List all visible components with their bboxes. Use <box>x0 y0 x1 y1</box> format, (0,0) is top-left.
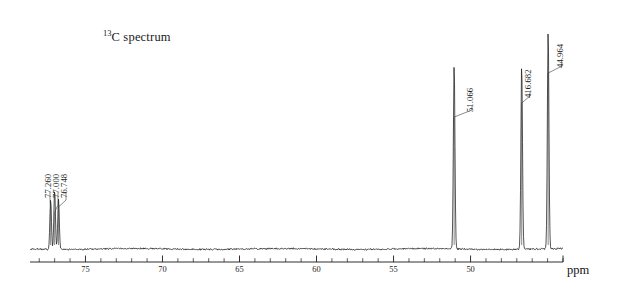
peak-leader-lines <box>50 62 562 245</box>
nmr-spectrum-figure: 13C spectrum 77.26077.00076.74851.066416… <box>0 0 618 292</box>
axis-tick-label: 60 <box>312 265 320 274</box>
axis-tick-label: 55 <box>389 265 397 274</box>
axis-tick-label: 50 <box>466 265 474 274</box>
spectrum-plot-area <box>0 0 618 292</box>
axis-tick-label: 70 <box>158 265 166 274</box>
peak-label: 44.964 <box>555 44 565 68</box>
peak-label: 51.066 <box>465 88 475 112</box>
peak-label: 416.682 <box>523 69 533 98</box>
x-axis <box>30 256 563 263</box>
spectrum-trace <box>30 34 563 250</box>
axis-unit-label: ppm <box>567 263 589 278</box>
axis-tick-label: 65 <box>235 265 243 274</box>
peak-label: 76.748 <box>59 174 69 198</box>
axis-tick-label: 75 <box>81 265 89 274</box>
